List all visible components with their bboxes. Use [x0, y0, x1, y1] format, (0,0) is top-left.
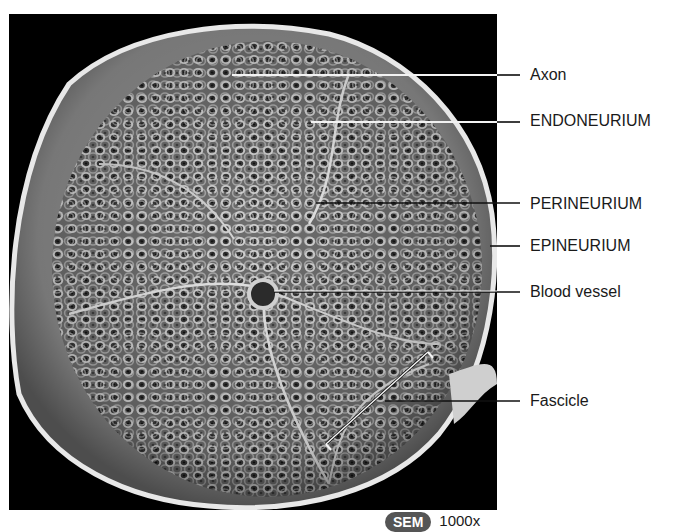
label-perineurium: PERINEURIUM [530, 195, 642, 213]
label-epineurium: EPINEURIUM [530, 237, 630, 255]
label-axon: Axon [530, 66, 566, 84]
nerve-cross-section-image [9, 14, 497, 510]
imaging-info: SEM 1000x [385, 512, 480, 532]
label-fascicle: Fascicle [530, 392, 589, 410]
sem-badge: SEM [385, 512, 431, 532]
label-blood-vessel: Blood vessel [530, 283, 621, 301]
label-endoneurium: ENDONEURIUM [530, 112, 651, 130]
sem-micrograph [9, 14, 497, 510]
magnification-text: 1000x [439, 512, 480, 530]
